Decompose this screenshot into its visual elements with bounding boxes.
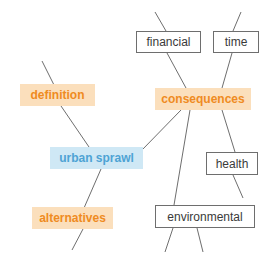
- edge-stub-financial-top: [155, 12, 166, 31]
- edge-definition-urban-sprawl: [61, 106, 89, 147]
- edge-urban-sprawl-consequences: [142, 110, 181, 150]
- node-health[interactable]: health: [206, 152, 258, 175]
- node-label-environmental: environmental: [167, 211, 242, 223]
- edge-stub-alternatives-bottom: [72, 229, 83, 250]
- edge-stub-environmental-bottom-right: [197, 228, 203, 252]
- node-consequences[interactable]: consequences: [155, 88, 251, 110]
- node-definition[interactable]: definition: [20, 84, 95, 106]
- node-time[interactable]: time: [213, 31, 259, 53]
- node-environmental[interactable]: environmental: [155, 205, 255, 228]
- node-label-alternatives: alternatives: [39, 212, 106, 224]
- edge-urban-sprawl-alternatives: [84, 169, 101, 208]
- node-label-time: time: [225, 36, 248, 48]
- node-label-health: health: [216, 158, 249, 170]
- node-label-urban-sprawl: urban sprawl: [59, 152, 134, 164]
- node-financial[interactable]: financial: [136, 31, 201, 53]
- node-label-financial: financial: [146, 36, 190, 48]
- edge-consequences-environmental: [174, 110, 190, 205]
- edge-stub-environmental-bottom-left: [165, 228, 173, 252]
- edge-time-consequences: [222, 53, 232, 88]
- edge-stub-time-top: [233, 12, 241, 31]
- edge-stub-definition-top: [42, 61, 54, 85]
- node-label-definition: definition: [31, 89, 85, 101]
- node-urban-sprawl[interactable]: urban sprawl: [50, 147, 143, 169]
- concept-map-canvas: financialtimedefinitionconsequencesurban…: [0, 0, 274, 265]
- node-alternatives[interactable]: alternatives: [32, 207, 113, 229]
- edge-financial-consequences: [167, 53, 186, 88]
- edge-consequences-health: [222, 110, 235, 152]
- edge-health-stub-bottom: [233, 175, 243, 198]
- node-label-consequences: consequences: [161, 93, 244, 105]
